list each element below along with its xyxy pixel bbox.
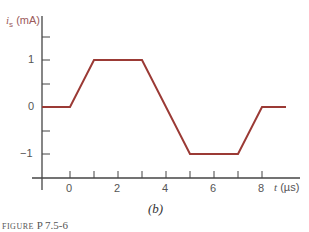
xtick-label-0: 0 (66, 182, 72, 194)
y-axis-sub: s (9, 20, 13, 29)
ytick-label-1: 1 (28, 53, 34, 65)
x-axis-unit: (µs) (280, 181, 299, 193)
xtick-label-2: 2 (114, 182, 120, 194)
figure-prefix: FIGURE (2, 222, 34, 231)
ytick-label-m1: −1 (20, 147, 33, 159)
x-axis-var: t (274, 181, 277, 193)
xtick-label-8: 8 (258, 182, 264, 194)
figure-caption: FIGURE P 7.5-6 (2, 219, 68, 231)
xtick-label-6: 6 (210, 182, 216, 194)
y-ticks (42, 37, 50, 154)
current-waveform (42, 60, 286, 154)
figure-id: P 7.5-6 (37, 219, 68, 231)
xtick-label-4: 4 (162, 182, 168, 194)
x-axis-label: t (µs) (274, 181, 299, 193)
subfigure-label: (b) (148, 201, 163, 217)
y-axis-unit: (mA) (16, 14, 40, 26)
ytick-label-0: 0 (28, 100, 34, 112)
chart-plot (0, 0, 309, 232)
x-ticks (70, 171, 262, 178)
y-axis-label: is (mA) (6, 14, 40, 29)
